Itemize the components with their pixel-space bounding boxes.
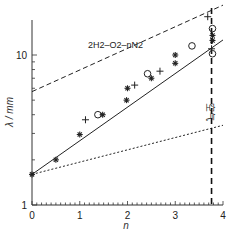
plus-point: [156, 68, 163, 75]
circle-point: [209, 25, 216, 32]
x-tick-label: 0: [29, 210, 35, 221]
asterisk-point: [209, 32, 215, 38]
circle-mark: [189, 43, 196, 50]
x-tick-label: 3: [172, 210, 178, 221]
asterisk-point: [29, 171, 35, 177]
plus-point: [131, 82, 138, 89]
chart: 01234110 2H2–O2–nN2 n λ / mm 空气: [0, 0, 234, 238]
circle-point: [144, 70, 151, 77]
x-tick-label: 1: [77, 210, 83, 221]
annotation: 2H2–O2–nN2: [88, 40, 143, 50]
x-axis-label: n: [123, 220, 129, 231]
reference-lines: [32, 5, 223, 205]
lower-bound-line: [32, 125, 223, 174]
plus-point: [82, 116, 89, 123]
asterisk-point: [53, 157, 59, 163]
asterisk-point: [172, 60, 178, 66]
asterisk-point: [77, 132, 83, 138]
fit-line: [32, 40, 223, 174]
circle-mark: [209, 50, 216, 57]
vertical-line-label: 空气: [205, 103, 216, 121]
asterisk-point: [124, 97, 130, 103]
asterisk-point: [172, 52, 178, 58]
y-axis-label: λ / mm: [4, 97, 15, 128]
axes: 01234110: [16, 20, 226, 221]
plus-point: [204, 13, 211, 20]
x-tick-label: 4: [220, 210, 226, 221]
circle-mark: [209, 25, 216, 32]
y-tick-label: 1: [21, 200, 27, 211]
data-points: [29, 13, 216, 177]
y-tick-label: 10: [16, 50, 28, 61]
circle-point: [189, 43, 196, 50]
circle-mark: [144, 70, 151, 77]
circle-point: [209, 50, 216, 57]
asterisk-point: [125, 85, 131, 91]
